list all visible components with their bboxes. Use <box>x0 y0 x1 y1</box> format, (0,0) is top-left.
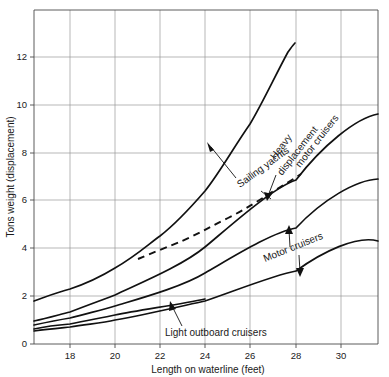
motor-cruisers-upper-curve <box>34 114 378 321</box>
y-tick-label-10: 10 <box>16 99 27 110</box>
sailing-yachts-arrow-icon <box>207 142 214 152</box>
x-tick-label-30: 30 <box>336 350 347 361</box>
x-tick-labels: 18 20 22 24 26 28 30 <box>65 350 347 361</box>
x-tickmarks <box>70 344 341 348</box>
y-tick-label-8: 8 <box>22 147 27 158</box>
x-tick-label-18: 18 <box>65 350 76 361</box>
displacement-vs-waterline-length-chart: 0 2 4 6 8 10 12 18 20 22 24 26 28 30 Len… <box>0 0 389 377</box>
x-gridlines <box>70 10 341 344</box>
x-tick-label-24: 24 <box>200 350 211 361</box>
light-outboard-cruisers-curve <box>34 240 378 331</box>
y-axis-title: Tons weight (displacement) <box>5 116 16 237</box>
y-tick-labels: 0 2 4 6 8 10 12 <box>16 51 27 349</box>
y-tick-label-12: 12 <box>16 51 27 62</box>
data-curves <box>34 43 378 331</box>
chart-container: 0 2 4 6 8 10 12 18 20 22 24 26 28 30 Len… <box>0 0 389 377</box>
y-gridlines <box>34 57 378 296</box>
x-tick-label-28: 28 <box>291 350 302 361</box>
y-tick-label-0: 0 <box>22 338 27 349</box>
plot-frame <box>34 10 378 344</box>
heavy-displacement-motor-cruisers-curve <box>138 174 301 259</box>
motor-cruisers-arrow-lower-icon <box>296 268 304 277</box>
x-tick-label-22: 22 <box>155 350 166 361</box>
x-axis-title: Length on waterline (feet) <box>151 364 264 375</box>
y-tick-label-2: 2 <box>22 290 27 301</box>
x-tick-label-26: 26 <box>245 350 256 361</box>
light-outboard-arrow-icon <box>169 301 176 311</box>
y-tick-label-4: 4 <box>22 242 27 253</box>
annotation-light-outboard-cruisers: Light outboard cruisers <box>165 327 267 338</box>
x-tick-label-20: 20 <box>110 350 121 361</box>
y-tick-label-6: 6 <box>22 194 27 205</box>
